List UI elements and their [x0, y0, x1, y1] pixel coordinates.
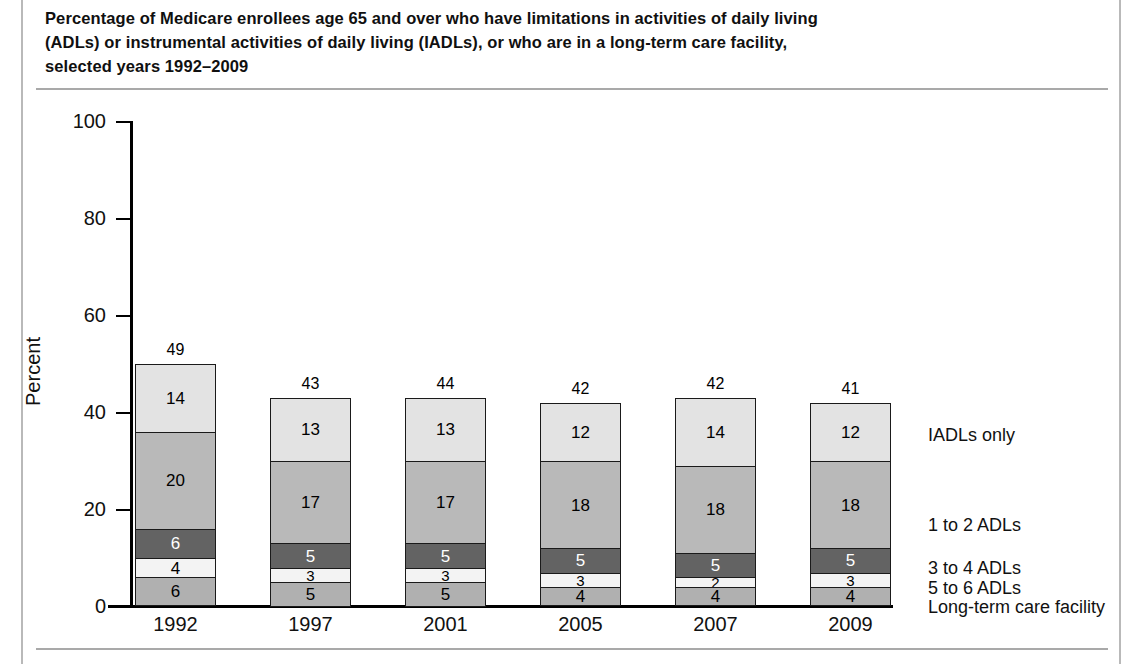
x-category-label: 2001 [391, 613, 501, 636]
y-tick-20 [116, 509, 131, 511]
bar-segment-value: 5 [306, 586, 315, 603]
bar-segment: 13 [405, 398, 486, 461]
bar-segment: 5 [675, 553, 756, 577]
y-axis-line [130, 121, 133, 608]
bar-segment-value: 4 [711, 588, 720, 605]
bar-segment-value: 13 [436, 421, 455, 438]
bar-segment: 5 [540, 548, 621, 572]
y-tick-label-100: 100 [42, 111, 106, 131]
bar-segment-value: 4 [846, 588, 855, 605]
y-tick-40 [116, 412, 131, 414]
x-category-label: 1992 [121, 613, 231, 636]
bar-total-label: 43 [270, 375, 351, 393]
bar-segment: 17 [405, 461, 486, 543]
bar-segment-value: 14 [166, 390, 185, 407]
bar-segment-value: 17 [436, 494, 455, 511]
bar-segment-value: 5 [711, 557, 720, 574]
bar-segment-value: 18 [841, 497, 860, 514]
bar-segment-value: 3 [441, 568, 449, 582]
bar-segment-value: 5 [846, 552, 855, 569]
bar-segment: 2 [675, 577, 756, 587]
bar-segment: 17 [270, 461, 351, 543]
y-tick-100 [116, 121, 131, 123]
bar-segment-value: 5 [306, 548, 315, 565]
x-category-label: 2005 [526, 613, 636, 636]
x-category-label: 2007 [661, 613, 771, 636]
bar-segment: 18 [540, 461, 621, 548]
bar-segment-value: 5 [576, 552, 585, 569]
bar-segment-value: 6 [171, 535, 180, 552]
bar-segment-value: 3 [306, 568, 314, 582]
x-category-label: 1997 [256, 613, 366, 636]
y-tick-label-text: 0 [42, 596, 106, 616]
y-tick-label-text: 20 [42, 499, 106, 519]
bar-segment: 18 [810, 461, 891, 548]
bar-segment-value: 14 [706, 424, 725, 441]
bar-segment-value: 6 [171, 583, 180, 600]
bar-segment: 18 [675, 466, 756, 553]
bar-total-label: 49 [135, 341, 216, 359]
legend-item-3-to-4-adls: 3 to 4 ADLs [928, 558, 1021, 578]
bar-segment-value: 17 [301, 494, 320, 511]
bar-segment: 5 [270, 582, 351, 606]
bar-segment-value: 4 [171, 560, 180, 577]
y-tick-80 [116, 218, 131, 220]
x-category-label: 2009 [796, 613, 906, 636]
bar-segment: 12 [540, 403, 621, 461]
y-tick-label-text: 60 [42, 305, 106, 325]
bar-segment-value: 12 [571, 424, 590, 441]
bar-segment: 4 [135, 558, 216, 577]
bar-total-label: 42 [675, 375, 756, 393]
chart-page: Percentage of Medicare enrollees age 65 … [0, 0, 1141, 664]
legend-item-iadls-only: IADLs only [928, 425, 1015, 445]
bar-total-label: 42 [540, 380, 621, 398]
y-tick-0 [116, 606, 131, 608]
bar-segment-value: 18 [571, 497, 590, 514]
bar-segment-value: 13 [301, 421, 320, 438]
y-tick-label-text: 40 [42, 402, 106, 422]
bar-segment: 5 [810, 548, 891, 572]
y-tick-label-text: 100 [42, 111, 106, 131]
bar-segment: 5 [270, 543, 351, 567]
y-tick-label-40: 40 [42, 402, 106, 422]
bar-segment: 12 [810, 403, 891, 461]
bar-segment: 3 [540, 573, 621, 588]
bar-total-label: 41 [810, 380, 891, 398]
x-axis-line [108, 605, 893, 608]
y-tick-label-80: 80 [42, 208, 106, 228]
legend-item-long-term-care-facility: Long-term care facility [928, 597, 1105, 617]
y-tick-label-60: 60 [42, 305, 106, 325]
bar-segment: 4 [675, 587, 756, 606]
y-tick-label-0: 0 [42, 596, 106, 616]
bar-segment-value: 5 [441, 586, 450, 603]
y-tick-label-text: 80 [42, 208, 106, 228]
y-tick-label-20: 20 [42, 499, 106, 519]
bar-segment: 3 [270, 568, 351, 583]
bar-segment-value: 4 [576, 588, 585, 605]
bar-segment-value: 2 [711, 577, 719, 587]
legend-item-5-to-6-adls: 5 to 6 ADLs [928, 578, 1021, 598]
bar-segment: 14 [135, 364, 216, 432]
bar-segment-value: 12 [841, 424, 860, 441]
bar-segment: 4 [540, 587, 621, 606]
bar-segment: 6 [135, 529, 216, 558]
bar-segment: 4 [810, 587, 891, 606]
bar-segment: 20 [135, 432, 216, 529]
bar-segment: 3 [405, 568, 486, 583]
bar-segment-value: 3 [576, 573, 584, 587]
bar-segment-value: 3 [846, 573, 854, 587]
bar-segment: 5 [405, 543, 486, 567]
bar-segment: 13 [270, 398, 351, 461]
bar-segment: 6 [135, 577, 216, 606]
bar-segment-value: 20 [166, 472, 185, 489]
bar-segment: 14 [675, 398, 756, 466]
y-tick-60 [116, 315, 131, 317]
bar-segment: 3 [810, 573, 891, 588]
bar-total-label: 44 [405, 375, 486, 393]
bar-segment-value: 5 [441, 548, 450, 565]
legend-item-1-to-2-adls: 1 to 2 ADLs [928, 515, 1021, 535]
bar-segment: 5 [405, 582, 486, 606]
bar-segment-value: 18 [706, 501, 725, 518]
